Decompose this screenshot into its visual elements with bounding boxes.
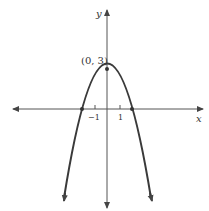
x-intercept-point: [130, 107, 134, 111]
x-tick-label: 1: [118, 113, 123, 122]
vertex-label: (0, 3): [81, 55, 108, 66]
parabola-graph: y x (0, 3) −1 1: [0, 0, 209, 211]
x-axis-label: x: [196, 113, 202, 124]
y-axis-label: y: [95, 8, 102, 19]
vertex-point: [105, 67, 109, 71]
x-tick-label: −1: [88, 113, 100, 122]
x-intercept-point: [80, 107, 84, 111]
